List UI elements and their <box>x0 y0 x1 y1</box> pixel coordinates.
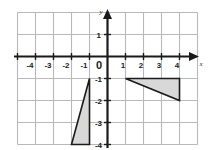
x-tick-label--3: -3 <box>44 61 52 70</box>
x-tick-label--1: -1 <box>80 61 88 70</box>
y-tick-label--4: -4 <box>95 141 103 150</box>
x-tick-label-3: 3 <box>157 61 162 70</box>
y-tick-label-1: 1 <box>97 31 102 40</box>
x-tick-label-4: 4 <box>175 61 180 70</box>
x-tick-label-2: 2 <box>139 61 144 70</box>
x-tick-label--4: -4 <box>26 61 34 70</box>
y-tick-label--1: -1 <box>95 75 103 84</box>
y-tick-label--2: -2 <box>95 97 103 106</box>
origin-label: 0 <box>96 59 102 71</box>
y-tick-label--3: -3 <box>95 119 103 128</box>
x-tick-label-1: 1 <box>121 61 126 70</box>
coordinate-plane-svg: -4 -3 -2 -1 1 2 3 4 0 1 -1 -2 -3 -4 x y <box>0 0 211 149</box>
x-tick-label--2: -2 <box>62 61 70 70</box>
coordinate-grid-figure: -4 -3 -2 -1 1 2 3 4 0 1 -1 -2 -3 -4 x y <box>0 0 211 149</box>
